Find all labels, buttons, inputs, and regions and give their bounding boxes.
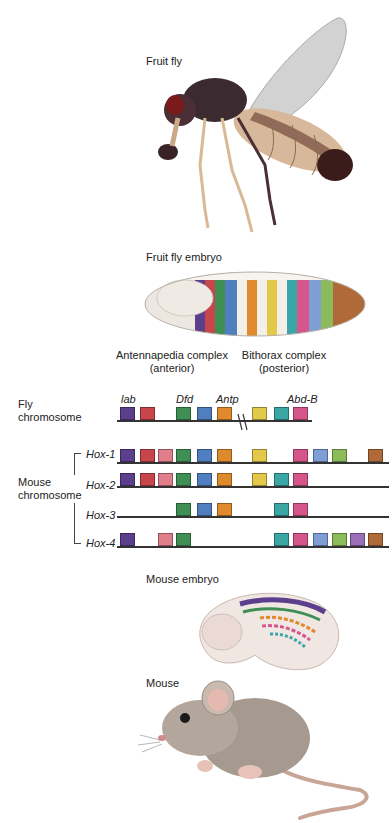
mouse-illustration: [0, 0, 392, 823]
